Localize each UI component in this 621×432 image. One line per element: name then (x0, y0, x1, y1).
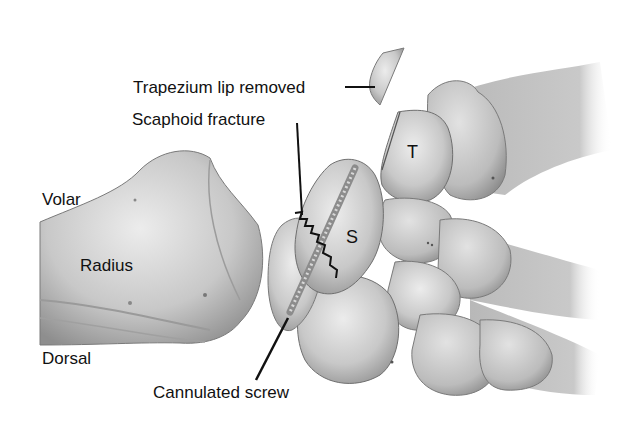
diagram-artwork (0, 0, 621, 432)
volar-label: Volar (42, 191, 81, 208)
radius-bone (40, 151, 263, 345)
cannulated-screw-leader (256, 318, 288, 380)
scaphoid-letter: S (346, 228, 358, 246)
radius-label: Radius (80, 257, 133, 274)
anatomy-diagram: Trapezium lip removed Scaphoid fracture … (0, 0, 621, 432)
scaphoid-fracture-leader (297, 123, 302, 215)
trapezium-lip-label: Trapezium lip removed (133, 79, 305, 96)
scaphoid-fracture-label: Scaphoid fracture (132, 111, 265, 128)
dorsal-label: Dorsal (42, 350, 91, 367)
trapezium-letter: T (407, 143, 418, 161)
trapezium-lip-fragment (369, 48, 404, 105)
cannulated-screw-label: Cannulated screw (153, 384, 289, 401)
